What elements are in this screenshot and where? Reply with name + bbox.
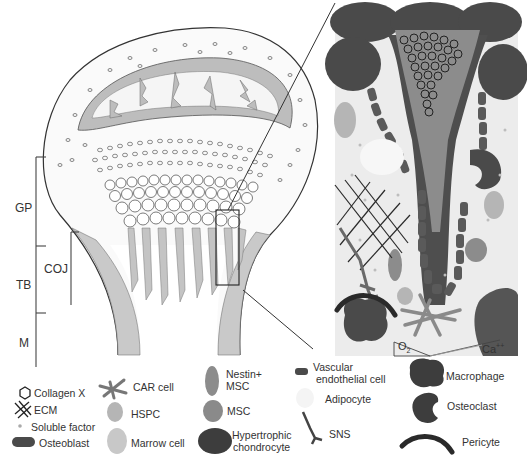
hypertrophic-chondrocyte-icon <box>198 428 232 454</box>
coj-bracket <box>71 232 79 305</box>
zone-label-tb: TB <box>16 278 31 292</box>
legend-osteoclast: Osteoclast <box>447 400 497 412</box>
legend-marrow-cell: Marrow cell <box>131 437 185 449</box>
adipocyte-icon <box>296 388 314 408</box>
zone-label-m: M <box>19 336 29 350</box>
legend-hypertrophic-line1: Hypertrophic <box>232 429 292 441</box>
msc-icon <box>203 400 223 422</box>
legend-macrophage: Macrophage <box>446 370 504 382</box>
hspc-cell <box>334 102 356 138</box>
inset-leader-bottom <box>243 290 313 349</box>
collagen-x-icon <box>20 387 30 399</box>
legend-ecm: ECM <box>34 404 57 416</box>
o2-label: O2 <box>398 340 410 357</box>
legend-adipocyte: Adipocyte <box>325 393 371 405</box>
vascular-endothelial-icon <box>295 368 308 375</box>
macrophage-cell <box>344 298 388 341</box>
osteoclast-icon <box>412 393 438 423</box>
legend-hypertrophic-line2: chondrocyte <box>233 441 290 453</box>
legend-nestin-msc-line2: MSC <box>226 380 249 392</box>
legend-soluble-factor: Soluble factor <box>31 421 95 433</box>
soluble-factor-icon <box>18 424 22 428</box>
ca-superscript: ++ <box>496 342 504 349</box>
ca-text: Ca <box>482 343 496 355</box>
marrow-cell <box>360 139 404 175</box>
ecm-icon <box>15 401 31 418</box>
macrophage-icon <box>410 358 444 387</box>
legend-nestin-msc-line1: Nestin+ <box>226 368 262 380</box>
zone-label-gp: GP <box>15 201 32 215</box>
calcium-label: Ca++ <box>482 340 504 355</box>
sns-icon <box>303 412 322 444</box>
legend-car-cell: CAR cell <box>133 381 174 393</box>
nestin-msc-icon <box>205 366 219 396</box>
legend-pericyte: Pericyte <box>462 436 500 448</box>
legend-vascular-line1: Vascular <box>313 361 353 373</box>
osteoblast-icon <box>12 437 35 447</box>
o2-subscript: 2 <box>407 347 411 354</box>
marrow-cell-icon <box>107 428 127 454</box>
legend-collagen-x: Collagen X <box>34 387 85 399</box>
hspc-cell-2 <box>397 287 413 305</box>
hspc-icon <box>107 402 123 422</box>
inset-panel <box>325 2 527 356</box>
car-cell-icon <box>100 380 126 398</box>
nestin-msc-cell <box>388 249 402 281</box>
legend-hspc: HSPC <box>131 408 160 420</box>
msc-cell <box>465 238 487 262</box>
legend-sns: SNS <box>329 428 351 440</box>
o2-text: O <box>398 340 407 352</box>
zone-label-coj: COJ <box>44 262 68 276</box>
legend-msc: MSC <box>227 405 250 417</box>
legend-vascular-line2: endothelial cell <box>316 373 385 385</box>
adipocyte-cell <box>484 191 504 219</box>
pericyte-icon <box>402 437 452 452</box>
legend-osteoblast: Osteoblast <box>39 437 89 449</box>
